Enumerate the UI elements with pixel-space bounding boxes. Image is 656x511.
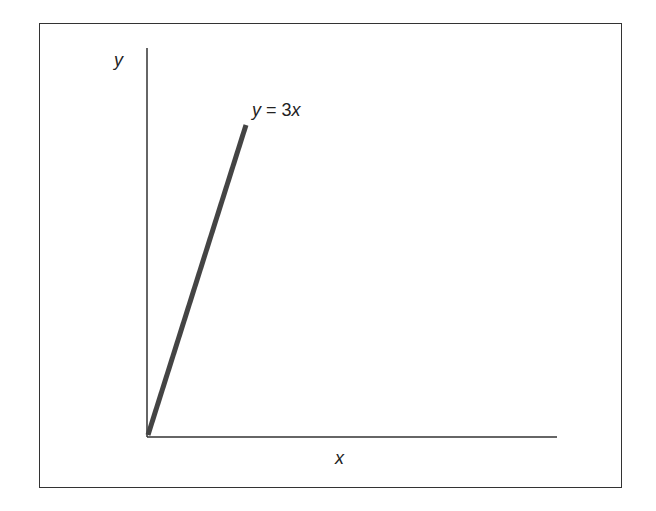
line-y-equals-3x <box>148 125 246 435</box>
x-axis-label: x <box>334 448 345 468</box>
line-annotation: y = 3x <box>250 100 302 120</box>
chart: y x y = 3x <box>0 0 656 511</box>
y-axis-label: y <box>112 50 124 70</box>
